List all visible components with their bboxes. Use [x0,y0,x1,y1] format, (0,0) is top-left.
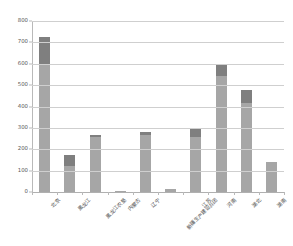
y-axis-tick-label: 600 [0,61,28,66]
gridline [32,128,284,129]
x-axis-labels: 北京黑龙江黑龙江农垦内蒙古辽宁新疆生产建设兵团江苏河南湖北湖南 [32,196,284,244]
x-axis-category-label: 河南 [227,197,238,208]
y-axis-tick-label: 500 [0,82,28,87]
y-axis-tick-label: 200 [0,147,28,152]
x-axis-tickmark [57,192,58,195]
x-axis-tickmark [133,192,134,195]
y-axis-tick-label: 400 [0,104,28,109]
bar-segment-top [241,90,252,103]
gridline [32,21,284,22]
x-axis-category-label: 内蒙古 [127,197,142,212]
x-axis-category-label: 黑龙江 [77,197,92,212]
y-axis-tick-label: 800 [0,18,28,23]
bar-group[interactable] [39,37,50,192]
x-axis-category-label: 北京 [50,197,61,208]
bar-group[interactable] [190,129,201,192]
x-axis-tickmark [82,192,83,195]
bar-segment-bottom [216,76,227,192]
x-axis-tickmark [234,192,235,195]
plot-area [32,21,284,192]
bar-segment-top [216,64,227,75]
bar-segment-bottom [241,103,252,192]
gridline [32,171,284,172]
gridline [32,149,284,150]
x-axis-tickmark [183,192,184,195]
gridline [32,107,284,108]
x-axis-tickmark [32,192,33,195]
x-axis-category-label: 湖南 [277,197,288,208]
x-axis-tickmark [158,192,159,195]
bar-segment-top [64,155,75,167]
x-axis-tickmark [208,192,209,195]
gridline [32,42,284,43]
y-axis-tick-label: 0 [0,189,28,194]
bar-segment-bottom [90,137,101,192]
bar-group[interactable] [64,155,75,192]
bar-group[interactable] [90,135,101,192]
x-axis-tickmark [259,192,260,195]
y-axis-tick-label: 700 [0,40,28,45]
gridline [32,85,284,86]
bar-segment-bottom [190,137,201,192]
x-axis-category-label: 黑龙江农垦 [105,197,127,219]
chart-container: 8007006005004003002001000 北京黑龙江黑龙江农垦内蒙古辽… [0,0,293,246]
bar-group[interactable] [266,162,277,192]
bar-group[interactable] [140,132,151,192]
bar-segment-bottom [266,162,277,192]
y-axis-tick-label: 100 [0,168,28,173]
y-axis-tick-label: 300 [0,125,28,130]
bar-segment-bottom [140,135,151,192]
x-axis-tickmark [108,192,109,195]
x-axis-category-label: 湖北 [252,197,263,208]
x-axis-category-label: 辽宁 [151,197,162,208]
gridline [32,64,284,65]
bar-segment-top [190,129,201,136]
bar-segment-top [39,37,50,65]
x-axis-tickmark [284,192,285,195]
